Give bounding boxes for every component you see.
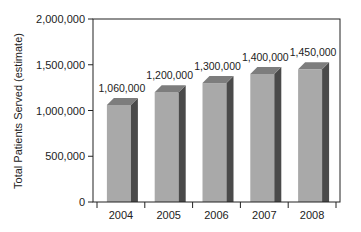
y-tick-label: 1,500,000 — [36, 59, 85, 71]
bar-2007: 1,400,000 — [242, 51, 289, 202]
bars: 1,060,0001,200,0001,300,0001,400,0001,45… — [99, 46, 337, 202]
data-label: 1,450,000 — [290, 46, 337, 58]
y-tick-label: 1,000,000 — [36, 105, 85, 117]
x-tick-label: 2007 — [252, 209, 276, 221]
y-axis-label: Total Patients Served (estimate) — [12, 33, 24, 189]
x-tick-label: 2004 — [109, 209, 133, 221]
bar-2004: 1,060,000 — [99, 82, 146, 202]
bar-2005: 1,200,000 — [146, 69, 193, 202]
x-tick-label: 2005 — [156, 209, 180, 221]
bar-2006: 1,300,000 — [194, 60, 241, 202]
bar-chart: Total Patients Served (estimate) 0500,00… — [0, 0, 361, 232]
data-label: 1,300,000 — [194, 60, 241, 72]
y-axis-ticks: 0500,0001,000,0001,500,0002,000,000 — [36, 13, 93, 208]
y-tick-label: 2,000,000 — [36, 13, 85, 25]
x-tick-label: 2008 — [300, 209, 324, 221]
data-label: 1,400,000 — [242, 51, 289, 63]
y-tick-label: 500,000 — [45, 150, 85, 162]
x-tick-label: 2006 — [204, 209, 228, 221]
x-axis-ticks: 20042005200620072008 — [97, 202, 336, 221]
y-tick-label: 0 — [79, 196, 85, 208]
data-label: 1,200,000 — [146, 69, 193, 81]
data-label: 1,060,000 — [99, 82, 146, 94]
bar-2008: 1,450,000 — [290, 46, 337, 202]
